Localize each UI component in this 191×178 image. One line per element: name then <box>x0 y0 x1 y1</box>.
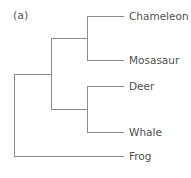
leaf-label-whale: Whale <box>129 126 162 138</box>
leaf-label-frog: Frog <box>129 150 151 162</box>
leaf-label-chameleon: Chameleon <box>129 10 189 22</box>
phylogenetic-tree <box>0 0 191 178</box>
leaf-label-deer: Deer <box>129 80 154 92</box>
leaf-label-mosasaur: Mosasaur <box>129 54 179 66</box>
